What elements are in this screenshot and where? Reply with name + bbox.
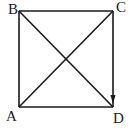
- vertex-label-d: D: [113, 110, 124, 126]
- vertex-label-c: C: [116, 0, 126, 15]
- vertex-label-a: A: [6, 108, 17, 124]
- arrowhead-icon: [111, 95, 116, 104]
- vertex-label-b: B: [8, 1, 18, 17]
- square-diagram: B C A D: [0, 0, 134, 128]
